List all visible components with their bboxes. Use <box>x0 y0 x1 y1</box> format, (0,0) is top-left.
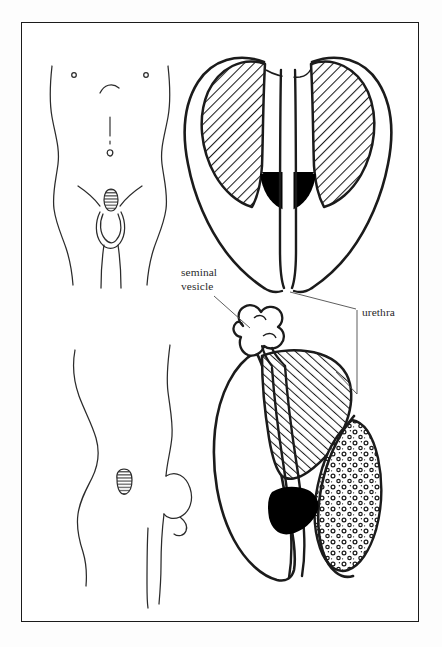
label-seminal-vesicle: seminal vesicle <box>181 266 250 328</box>
urethra-leader-upper <box>290 292 356 309</box>
prostate-marker-side <box>117 469 132 494</box>
urethra-label: urethra <box>362 306 395 318</box>
prostate-sagittal-section <box>214 305 381 580</box>
nipple-left <box>72 73 77 78</box>
prostate-marker-front <box>104 189 118 211</box>
seminal-vesicle-label-line1: seminal <box>181 266 217 278</box>
illustration-page: seminal vesicle urethra <box>0 0 442 647</box>
torso-side-view <box>74 345 192 608</box>
prostate-coronal-section <box>185 58 391 292</box>
torso-front-view <box>50 66 170 288</box>
nipple-right <box>144 73 149 78</box>
sagittal-black-zone <box>268 487 319 535</box>
seminal-vesicle-label-line2: vesicle <box>181 280 213 292</box>
anatomy-illustration: seminal vesicle urethra <box>0 0 442 647</box>
